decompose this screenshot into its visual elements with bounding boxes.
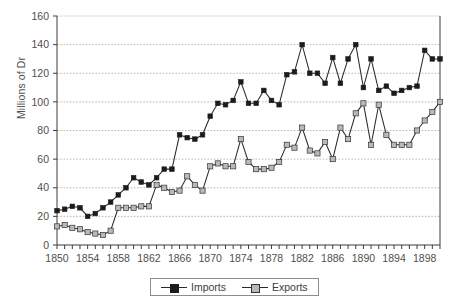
data-point-imports <box>177 132 182 137</box>
data-point-exports <box>131 205 136 210</box>
data-point-imports <box>108 200 113 205</box>
x-tick-label: 1850 <box>45 252 69 264</box>
x-tick-label: 1898 <box>413 252 437 264</box>
x-tick-label: 1894 <box>382 252 406 264</box>
data-point-imports <box>239 80 244 85</box>
data-point-exports <box>269 165 274 170</box>
data-point-imports <box>369 57 374 62</box>
data-point-exports <box>376 102 381 107</box>
data-point-exports <box>338 125 343 130</box>
data-point-exports <box>307 148 312 153</box>
data-point-exports <box>208 164 213 169</box>
data-point-exports <box>368 142 373 147</box>
x-tick-label: 1886 <box>321 252 345 264</box>
data-point-exports <box>384 132 389 137</box>
y-tick-label: 0 <box>43 239 49 251</box>
x-tick-label: 1862 <box>137 252 161 264</box>
x-tick-label: 1890 <box>352 252 376 264</box>
data-point-imports <box>70 204 75 209</box>
data-point-exports <box>93 231 98 236</box>
data-point-imports <box>307 71 312 76</box>
series-markers-group <box>54 42 442 237</box>
x-tick-label: 1866 <box>168 252 192 264</box>
data-point-exports <box>430 109 435 114</box>
data-point-imports <box>116 193 121 198</box>
legend-marker-imports-icon <box>161 283 187 292</box>
data-point-exports <box>100 232 105 237</box>
series-line-exports <box>57 102 440 235</box>
data-point-exports <box>70 225 75 230</box>
y-axis-ticks-group: 020406080100120140160 <box>31 10 57 251</box>
data-point-exports <box>200 188 205 193</box>
x-tick-label: 1858 <box>107 252 131 264</box>
data-point-exports <box>192 182 197 187</box>
data-point-exports <box>77 227 82 232</box>
chart-container: Millions of Dr 020406080100120140160 185… <box>0 0 452 306</box>
data-point-exports <box>315 151 320 156</box>
data-point-imports <box>346 57 351 62</box>
data-point-imports <box>162 167 167 172</box>
data-point-exports <box>62 222 67 227</box>
data-point-exports <box>414 128 419 133</box>
data-point-exports <box>116 205 121 210</box>
data-point-exports <box>139 204 144 209</box>
x-tick-label: 1874 <box>229 252 253 264</box>
y-tick-label: 60 <box>37 153 49 165</box>
data-point-imports <box>154 175 159 180</box>
data-point-exports <box>399 142 404 147</box>
y-tick-label: 160 <box>31 10 49 22</box>
y-tick-label: 20 <box>37 210 49 222</box>
data-point-imports <box>430 57 435 62</box>
data-point-exports <box>238 136 243 141</box>
data-point-imports <box>285 72 290 77</box>
data-point-imports <box>193 137 198 142</box>
data-point-imports <box>384 84 389 89</box>
data-point-imports <box>399 88 404 93</box>
data-point-imports <box>85 214 90 219</box>
data-point-exports <box>277 159 282 164</box>
data-point-exports <box>54 224 59 229</box>
legend-item-exports: Exports <box>242 281 308 293</box>
data-point-exports <box>215 161 220 166</box>
data-point-imports <box>131 175 136 180</box>
y-tick-label: 140 <box>31 38 49 50</box>
data-point-imports <box>62 207 67 212</box>
data-point-imports <box>330 55 335 60</box>
data-point-imports <box>200 132 205 137</box>
data-point-exports <box>254 167 259 172</box>
data-point-exports <box>437 99 442 104</box>
data-point-imports <box>407 85 412 90</box>
data-point-imports <box>323 81 328 86</box>
data-point-exports <box>323 139 328 144</box>
data-point-imports <box>216 101 221 106</box>
data-point-imports <box>269 98 274 103</box>
x-tick-label: 1882 <box>290 252 314 264</box>
gridlines-group <box>57 16 440 216</box>
data-point-imports <box>139 180 144 185</box>
data-point-exports <box>231 164 236 169</box>
x-tick-label: 1854 <box>76 252 100 264</box>
legend-label-imports: Imports <box>191 281 226 293</box>
legend-marker-exports-icon <box>242 283 268 292</box>
data-point-exports <box>177 188 182 193</box>
data-point-exports <box>185 174 190 179</box>
x-tick-label: 1870 <box>199 252 223 264</box>
data-point-imports <box>300 42 305 47</box>
y-tick-label: 120 <box>31 67 49 79</box>
data-point-imports <box>208 114 213 119</box>
data-point-imports <box>415 84 420 89</box>
data-point-imports <box>55 208 60 213</box>
data-point-exports <box>246 159 251 164</box>
data-point-imports <box>231 98 236 103</box>
data-point-exports <box>422 118 427 123</box>
data-point-imports <box>262 88 267 93</box>
data-point-imports <box>78 205 83 210</box>
data-point-imports <box>277 102 282 107</box>
data-point-imports <box>101 205 106 210</box>
data-point-exports <box>85 230 90 235</box>
legend-item-imports: Imports <box>161 281 226 293</box>
data-point-imports <box>361 85 366 90</box>
y-tick-label: 80 <box>37 124 49 136</box>
data-point-exports <box>391 142 396 147</box>
data-point-exports <box>146 204 151 209</box>
